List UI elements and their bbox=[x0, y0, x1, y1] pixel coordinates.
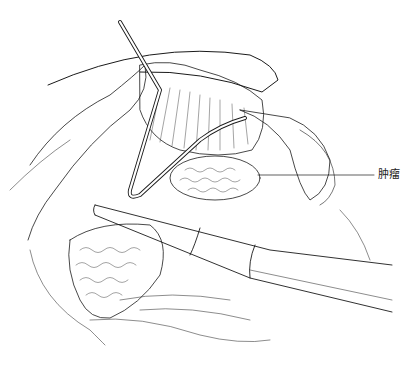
omentum-right bbox=[240, 110, 330, 200]
lower-tissue bbox=[30, 210, 370, 345]
retractor-blade bbox=[48, 51, 278, 92]
bowel-loop bbox=[69, 224, 164, 318]
bowel-texture bbox=[76, 248, 140, 298]
tumor-label: 肿瘤 bbox=[378, 168, 400, 182]
retraction-tube bbox=[120, 22, 245, 197]
tumor-texture bbox=[180, 168, 240, 192]
illustration-canvas: 肿瘤 bbox=[0, 0, 418, 387]
surgical-clamp bbox=[94, 205, 393, 312]
surgical-drawing bbox=[0, 0, 418, 387]
